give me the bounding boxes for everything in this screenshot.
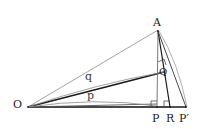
figure-canvas xyxy=(0,0,203,129)
geometry-figure: A O P R P′ Q q p xyxy=(0,0,203,129)
dot-A xyxy=(157,30,159,32)
point-label-O: O xyxy=(13,99,22,110)
point-label-Q: Q xyxy=(159,67,167,77)
segment-A-P xyxy=(157,31,158,107)
right-angle-at-Q xyxy=(158,59,166,65)
point-label-R: R xyxy=(166,113,174,124)
dot-R xyxy=(169,106,171,108)
point-label-A: A xyxy=(153,17,161,28)
segment-label-q: q xyxy=(85,71,92,82)
point-label-P-prime: P′ xyxy=(179,113,189,124)
dot-P xyxy=(156,106,158,108)
point-label-P: P xyxy=(152,113,159,124)
segment-label-p: p xyxy=(87,90,94,101)
dot-O xyxy=(27,106,29,108)
dot-P-prime xyxy=(185,106,187,108)
